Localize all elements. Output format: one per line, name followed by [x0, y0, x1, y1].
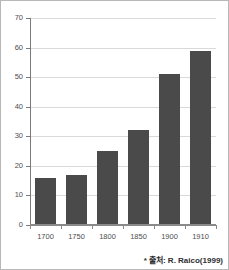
x-axis-tick: [154, 225, 155, 229]
x-axis-tick-label: 1800: [91, 233, 125, 241]
x-axis-tick: [123, 225, 124, 229]
x-axis-tick-label: 1750: [60, 233, 94, 241]
x-axis-tick-label: 1700: [29, 233, 63, 241]
x-axis-tick-label: 1910: [184, 233, 218, 241]
x-axis-tick-label: 1900: [153, 233, 187, 241]
x-axis-tick: [185, 225, 186, 229]
x-axis-tick-label: 1850: [122, 233, 156, 241]
bar-chart-figure: 010203040506070 170017501800185019001910…: [0, 0, 229, 270]
x-axis-tick: [92, 225, 93, 229]
x-axis-tick: [30, 225, 31, 229]
x-axis-tick: [216, 225, 217, 229]
x-axis-tick: [61, 225, 62, 229]
x-axis-labels: 170017501800185019001910: [1, 1, 229, 270]
source-note: * 출처: R. Raico(1999): [144, 257, 223, 265]
